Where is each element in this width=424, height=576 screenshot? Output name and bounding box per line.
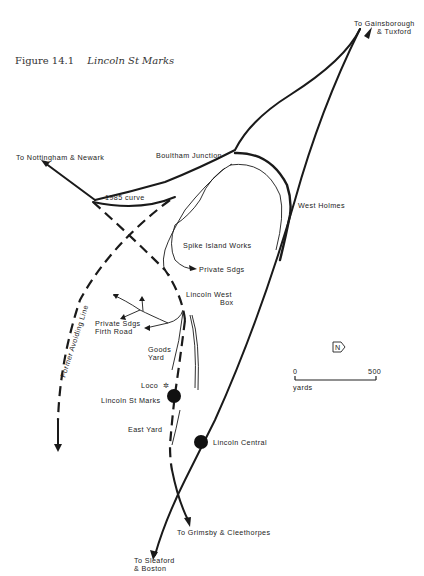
label-goods-yard-2: Yard	[148, 353, 164, 362]
label-lincoln-central: Lincoln Central	[213, 438, 267, 447]
siding-spike-island-1	[175, 164, 232, 225]
label-grimsby: To Grimsby & Cleethorpes	[177, 528, 270, 537]
station-lincoln-st-marks	[167, 389, 181, 403]
label-private-sdgs-firth-2: Firth Road	[95, 327, 133, 336]
station-lincoln-central	[194, 435, 208, 449]
north-letter: N	[335, 343, 341, 352]
label-west-holmes: West Holmes	[298, 201, 345, 210]
arrow-to-gainsborough-icon	[364, 27, 372, 39]
arrow-firth-1-icon	[113, 294, 119, 299]
arrow-firth-3-icon	[139, 296, 145, 301]
label-nottingham: To Nottingham & Newark	[16, 153, 104, 162]
scale-unit: yards	[293, 383, 313, 392]
loco-icon: ✲	[163, 381, 169, 390]
railway-map: ✲ To Gainsborough & Tuxford To Nottingha…	[0, 0, 424, 576]
arrow-firth-4-icon	[144, 325, 150, 331]
north-arrow-icon: N	[333, 342, 345, 352]
arrow-private-sdgs-icon	[189, 265, 197, 271]
siding-east-yard	[172, 410, 180, 445]
label-lincoln-st-marks: Lincoln St Marks	[101, 396, 161, 405]
track-nottingham-line	[45, 163, 95, 200]
arrow-to-grimsby-icon	[184, 517, 191, 527]
label-gainsborough-2: & Tuxford	[377, 27, 411, 36]
label-spike-island: Spike Island Works	[183, 241, 252, 250]
label-east-yard: East Yard	[128, 425, 163, 434]
track-gainsborough-boultham	[95, 29, 360, 200]
siding-inner-loop	[230, 164, 282, 250]
label-loco: Loco	[141, 381, 158, 390]
siding-spike-island-2	[163, 168, 225, 275]
scale-start: 0	[293, 367, 297, 376]
scale-bar: 0 500 yards	[293, 367, 381, 392]
label-lincoln-west-box-2: Box	[220, 298, 234, 307]
scale-end: 500	[368, 367, 381, 376]
label-boultham-junction: Boultham Junction	[156, 151, 222, 160]
label-1985-curve: 1985 curve	[105, 193, 145, 202]
label-sleaford-2: & Boston	[134, 564, 166, 573]
label-private-sdgs: Private Sdgs	[199, 265, 245, 274]
